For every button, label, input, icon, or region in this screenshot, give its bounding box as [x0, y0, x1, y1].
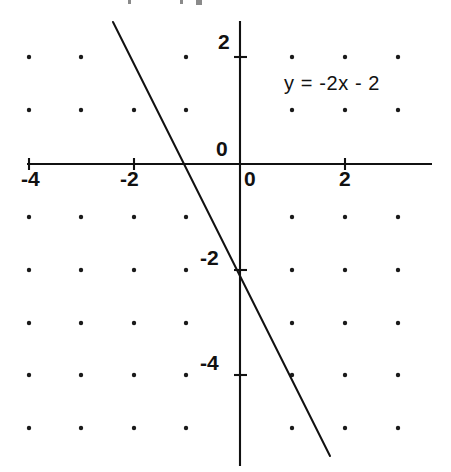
- y-tick-label-neg2: -2: [200, 247, 219, 268]
- coordinate-plane-svg: [0, 0, 451, 472]
- x-tick-label-zero: 0: [244, 168, 256, 189]
- equation-label: y = -2x - 2: [284, 73, 380, 93]
- x-tick-label-neg4: -4: [21, 168, 40, 189]
- x-tick-label-pos2: 2: [339, 168, 351, 189]
- x-tick-label-neg2: -2: [120, 168, 139, 189]
- y-tick-label-neg4: -4: [200, 352, 219, 373]
- y-tick-label-zero: 0: [216, 138, 228, 159]
- graph-figure: -4 -2 0 2 2 0 -2 -4 y = -2x - 2: [0, 0, 451, 472]
- cropped-top-marks: [128, 0, 202, 5]
- y-tick-label-pos2: 2: [218, 31, 230, 52]
